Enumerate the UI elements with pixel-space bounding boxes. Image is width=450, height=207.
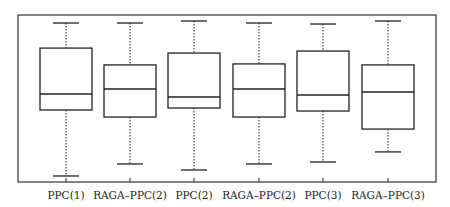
x-axis-labels: PPC(1)RAGA–PPC(2)PPC(2)RAGA–PPC(2)PPC(3)… (47, 189, 424, 201)
x-tick-label: PPC(2) (175, 189, 212, 201)
iqr-box (168, 53, 220, 108)
iqr-box (297, 51, 349, 111)
x-tick-label: RAGA–PPC(2) (93, 189, 167, 201)
box-4 (233, 23, 285, 164)
x-tick-label: RAGA–PPC(3) (351, 189, 425, 201)
boxplot-chart: PPC(1)RAGA–PPC(2)PPC(2)RAGA–PPC(2)PPC(3)… (0, 0, 450, 207)
iqr-box (362, 65, 414, 129)
box-6 (362, 21, 414, 152)
box-5 (297, 24, 349, 162)
iqr-box (104, 65, 156, 117)
plot-frame (18, 15, 436, 182)
iqr-box (40, 48, 92, 110)
box-1 (40, 23, 92, 176)
x-axis-ticks (66, 178, 388, 182)
box-3 (168, 21, 220, 170)
box-group (40, 21, 414, 176)
x-tick-label: PPC(1) (47, 189, 84, 201)
x-tick-label: RAGA–PPC(2) (222, 189, 296, 201)
box-2 (104, 23, 156, 164)
x-tick-label: PPC(3) (304, 189, 341, 201)
iqr-box (233, 64, 285, 117)
